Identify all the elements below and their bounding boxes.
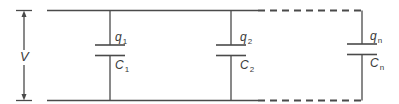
charge-subscript: n [378, 36, 382, 45]
circuit-drawing [0, 0, 399, 104]
charge-label-2: q2 [240, 31, 252, 45]
capacitance-subscript: 1 [125, 65, 129, 74]
capacitance-symbol: C [240, 58, 249, 72]
capacitance-subscript: 2 [250, 65, 254, 74]
charge-subscript: 1 [123, 37, 127, 46]
charge-symbol: q [370, 29, 377, 43]
capacitor-1 [95, 11, 125, 101]
charge-symbol: q [240, 30, 247, 44]
parallel-capacitor-circuit: V q1 C1 q2 C2 qn Cn [0, 0, 399, 104]
capacitance-label-2: C2 [240, 59, 254, 73]
capacitance-label-n: Cn [370, 57, 384, 71]
charge-label-1: q1 [115, 31, 127, 45]
capacitor-2 [216, 11, 246, 101]
voltage-label: V [20, 51, 29, 63]
charge-symbol: q [115, 30, 122, 44]
voltage-arrow-up-icon [22, 11, 27, 18]
capacitance-symbol: C [115, 58, 124, 72]
charge-subscript: 2 [248, 37, 252, 46]
capacitance-subscript: n [380, 63, 384, 72]
charge-label-n: qn [370, 30, 382, 44]
capacitance-symbol: C [370, 56, 379, 70]
voltage-arrow-down-icon [22, 94, 27, 101]
capacitance-label-1: C1 [115, 59, 129, 73]
